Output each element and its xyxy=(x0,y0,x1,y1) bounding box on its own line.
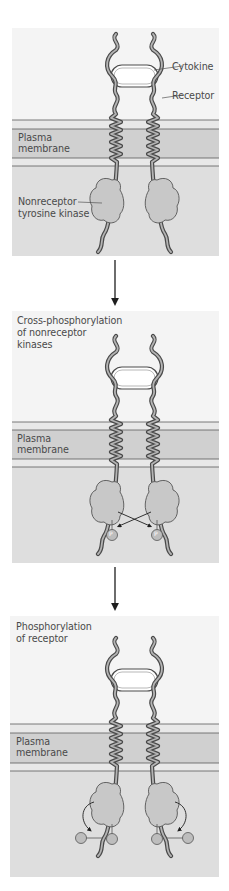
panel-2-title-line3: kinases xyxy=(17,339,52,351)
label-kinase-line2: tyrosine kinase xyxy=(18,208,89,220)
label-membrane-line1: Plasma xyxy=(16,736,50,748)
label-membrane-line2: membrane xyxy=(18,143,70,155)
cytokine-shape xyxy=(111,65,158,87)
phosphate-receptor-right xyxy=(183,833,194,844)
phosphate-kinase-left xyxy=(107,834,118,845)
panel-3-title-line1: Phosphorylation xyxy=(16,621,92,633)
step-arrow-2 xyxy=(0,565,229,615)
panel-2-title-line1: Cross-phosphorylation xyxy=(17,315,122,327)
step-arrow-1 xyxy=(0,258,229,310)
panel-2-title-line2: of nonreceptor xyxy=(17,327,86,339)
phosphate-label-right: P xyxy=(154,530,158,538)
phosphate-kinase-right xyxy=(152,834,163,845)
label-receptor: Receptor xyxy=(172,90,214,102)
panel-3-title-line2: of receptor xyxy=(16,633,68,645)
label-cytokine: Cytokine xyxy=(172,61,213,73)
label-kinase-line1: Nonreceptor xyxy=(18,196,77,208)
label-membrane-line1: Plasma xyxy=(17,433,51,445)
label-membrane-line2: membrane xyxy=(16,747,68,759)
label-membrane-line1: Plasma xyxy=(18,132,52,144)
panel-step-1: Cytokine Receptor Plasma membrane Nonrec… xyxy=(12,28,219,256)
phosphate-receptor-left xyxy=(76,833,87,844)
label-membrane-line2: membrane xyxy=(17,444,69,456)
panel-step-2: Cross-phosphorylation of nonreceptor kin… xyxy=(12,311,219,563)
panel-step-3: Phosphorylation of receptor Plasma membr… xyxy=(10,616,219,877)
phosphate-label-left: P xyxy=(109,530,113,538)
